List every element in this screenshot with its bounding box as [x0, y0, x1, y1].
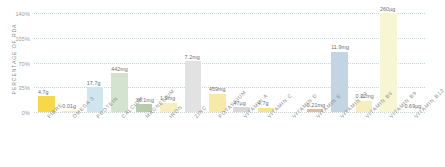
x-label-slot: VITAMIN B9 [376, 112, 400, 167]
bar-slot: 17.7g [83, 13, 107, 112]
bar[interactable]: 442mg [111, 73, 128, 112]
x-label-slot: ZINC [181, 112, 205, 167]
bar-value-label: 260µg [380, 6, 395, 12]
x-label-slot: FIBRE [34, 112, 58, 167]
x-axis-labels: FIBREOMEGA 3PROTEINCALCIUMMAGNESIUMIRONZ… [34, 112, 425, 167]
bar-slot: 36.1mg [132, 13, 156, 112]
bar-value-label: 17.7g [87, 80, 101, 86]
y-tick-label: 0% [22, 110, 30, 116]
x-label-slot: VITAMIN C [254, 112, 278, 167]
y-tick-label: 35% [19, 85, 30, 91]
x-label-slot: MAGNESIUM [132, 112, 156, 167]
bar-slot: 459mg [205, 13, 229, 112]
x-label-slot: VITAMIN B3 [327, 112, 351, 167]
x-label-slot: VITAMIN D [278, 112, 302, 167]
x-label-slot: CALCIUM [107, 112, 131, 167]
y-tick-label: 105% [15, 36, 30, 42]
bar-value-label: 459mg [209, 86, 226, 92]
y-tick-label: 70% [19, 61, 30, 67]
x-label-slot: VITAMIN B6 [352, 112, 376, 167]
x-label-slot: OMEGA 3 [58, 112, 82, 167]
x-label-slot: PROTEIN [83, 112, 107, 167]
x-label-slot: VITAMIN A [230, 112, 254, 167]
bar-slot: 4.7g [34, 13, 58, 112]
bar-value-label: 0.01g [62, 103, 76, 109]
bar-slot: 0.01g [58, 13, 82, 112]
bar-value-label: 7.2mg [185, 54, 200, 60]
x-label-slot: VITAMIN B12 [401, 112, 425, 167]
bar-value-label: 11.9mg [331, 44, 349, 50]
bar[interactable]: 7.2mg [185, 61, 202, 112]
y-tick-label: 140% [15, 11, 30, 17]
x-label-slot: POTASSIUM [205, 112, 229, 167]
bar-value-label: 442mg [111, 66, 128, 72]
x-label-slot: IRON [156, 112, 180, 167]
y-axis-title: PERCENTAGE OF RDA [11, 14, 17, 104]
x-label-slot: VITAMIN E [303, 112, 327, 167]
bar-slot: 7.2mg [181, 13, 205, 112]
bar-value-label: 4.7g [38, 89, 49, 95]
